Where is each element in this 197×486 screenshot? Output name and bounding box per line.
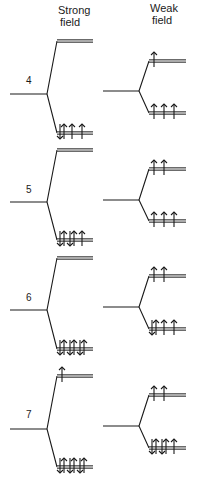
strong-field-split-lines <box>47 41 57 133</box>
weak-field-t2g-level <box>149 328 186 330</box>
weak-field-split-lines <box>139 169 149 221</box>
strong-field-split-lines <box>47 376 57 467</box>
strong-field-split-lines <box>47 150 57 240</box>
configuration-d5 <box>10 149 186 246</box>
configuration-d7 <box>10 367 186 473</box>
strong-field-eg-level <box>57 149 93 151</box>
configuration-d4 <box>10 40 186 139</box>
strong-field-eg-level <box>57 257 93 259</box>
weak-field-split-lines <box>139 395 149 448</box>
strong-field-t2g-level <box>57 239 93 241</box>
strong-field-split-lines <box>47 258 57 349</box>
strong-field-t2g-level <box>57 132 93 134</box>
weak-field-t2g-level <box>149 447 186 449</box>
weak-field-split-lines <box>139 61 149 113</box>
crystal-field-splitting-diagram <box>0 0 197 486</box>
strong-field-t2g-level <box>57 348 93 350</box>
weak-field-split-lines <box>139 276 149 329</box>
strong-field-t2g-level <box>57 466 93 468</box>
configuration-d6 <box>10 257 186 355</box>
strong-field-eg-level <box>57 40 93 42</box>
